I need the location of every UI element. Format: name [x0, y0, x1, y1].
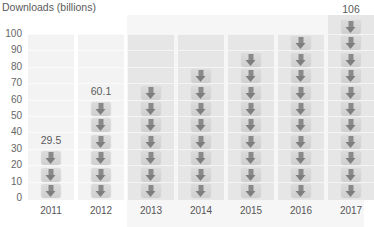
download-arrow-icon	[92, 151, 111, 165]
gridline	[78, 67, 124, 68]
download-arrow-icon	[292, 135, 311, 149]
download-arrow-icon	[192, 69, 211, 83]
y-tick-label: 30	[0, 144, 22, 154]
bar-column-2014	[178, 34, 224, 200]
x-tick-label: 2013	[128, 205, 174, 216]
download-arrow-icon	[42, 151, 61, 165]
gridline	[228, 34, 274, 35]
download-arrow-icon	[242, 168, 261, 182]
download-arrow-icon	[192, 184, 211, 198]
value-label-2011: 29.5	[28, 134, 74, 146]
download-arrow-icon	[292, 36, 311, 50]
download-arrow-icon	[342, 184, 361, 198]
download-arrow-icon	[342, 168, 361, 182]
x-tick-label: 2011	[28, 205, 74, 216]
icon-stack	[292, 34, 311, 198]
gridline	[28, 100, 74, 101]
download-arrow-icon	[292, 86, 311, 100]
y-tick-label: 90	[0, 45, 22, 55]
gridline	[28, 83, 74, 84]
gridline	[128, 67, 174, 68]
download-arrow-icon	[192, 102, 211, 116]
x-tick-label: 2016	[278, 205, 324, 216]
y-tick-label: 100	[0, 29, 22, 39]
download-arrow-icon	[142, 151, 161, 165]
download-arrow-icon	[142, 102, 161, 116]
download-arrow-icon	[42, 168, 61, 182]
download-arrow-icon	[292, 151, 311, 165]
download-arrow-icon	[242, 135, 261, 149]
download-arrow-icon	[92, 118, 111, 132]
download-arrow-icon	[192, 86, 211, 100]
download-arrow-icon	[342, 53, 361, 67]
x-tick-label: 2017	[328, 205, 374, 216]
download-arrow-icon	[142, 184, 161, 198]
bar-column-2015	[228, 34, 274, 200]
download-arrow-icon	[292, 168, 311, 182]
x-tick-label: 2012	[78, 205, 124, 216]
gridline	[28, 67, 74, 68]
download-arrow-icon	[342, 118, 361, 132]
gridline	[28, 34, 74, 35]
download-arrow-icon	[342, 151, 361, 165]
gridline	[128, 34, 174, 35]
download-arrow-icon	[142, 168, 161, 182]
download-arrow-icon	[92, 102, 111, 116]
value-label-2012: 60.1	[78, 85, 124, 97]
icon-stack	[342, 18, 361, 198]
download-arrow-icon	[192, 168, 211, 182]
x-tick-label: 2015	[228, 205, 274, 216]
y-tick-label: 80	[0, 62, 22, 72]
download-arrow-icon	[242, 118, 261, 132]
gridline	[28, 116, 74, 117]
gridline	[178, 34, 224, 35]
bar-column-2012	[78, 34, 124, 200]
download-arrow-icon	[242, 53, 261, 67]
download-arrow-icon	[342, 135, 361, 149]
y-tick-label: 40	[0, 127, 22, 137]
download-arrow-icon	[142, 135, 161, 149]
y-tick-label: 0	[0, 193, 22, 203]
download-arrow-icon	[142, 118, 161, 132]
download-arrow-icon	[342, 86, 361, 100]
download-arrow-icon	[92, 168, 111, 182]
y-tick-label: 10	[0, 177, 22, 187]
download-arrow-icon	[142, 86, 161, 100]
download-arrow-icon	[242, 102, 261, 116]
download-arrow-icon	[192, 135, 211, 149]
gridline	[178, 50, 224, 51]
bar-column-2013	[128, 34, 174, 200]
bar-column-2011	[28, 34, 74, 200]
y-tick-label: 20	[0, 160, 22, 170]
icon-stack	[42, 149, 61, 198]
download-arrow-icon	[92, 135, 111, 149]
download-arrow-icon	[192, 118, 211, 132]
icon-stack	[142, 83, 161, 198]
download-arrow-icon	[292, 118, 311, 132]
download-arrow-icon	[242, 86, 261, 100]
gridline	[78, 50, 124, 51]
y-axis-title: Downloads (billions)	[2, 1, 96, 13]
icon-stack	[192, 67, 211, 198]
icon-stack	[242, 50, 261, 198]
y-tick-label: 60	[0, 95, 22, 105]
y-tick-label: 50	[0, 111, 22, 121]
bar-column-2017	[328, 15, 374, 200]
download-arrow-icon	[242, 151, 261, 165]
download-arrow-icon	[292, 184, 311, 198]
y-tick-label: 70	[0, 78, 22, 88]
download-arrow-icon	[42, 184, 61, 198]
icon-stack	[92, 100, 111, 198]
download-arrow-icon	[342, 102, 361, 116]
x-tick-label: 2014	[178, 205, 224, 216]
gridline	[128, 50, 174, 51]
download-arrow-icon	[342, 36, 361, 50]
download-arrow-icon	[192, 151, 211, 165]
download-arrow-icon	[92, 184, 111, 198]
bar-column-2016	[278, 34, 324, 200]
value-label-2017: 106	[328, 3, 374, 15]
download-arrow-icon	[342, 69, 361, 83]
download-arrow-icon	[242, 184, 261, 198]
download-arrow-icon	[342, 20, 361, 34]
gridline	[78, 34, 124, 35]
